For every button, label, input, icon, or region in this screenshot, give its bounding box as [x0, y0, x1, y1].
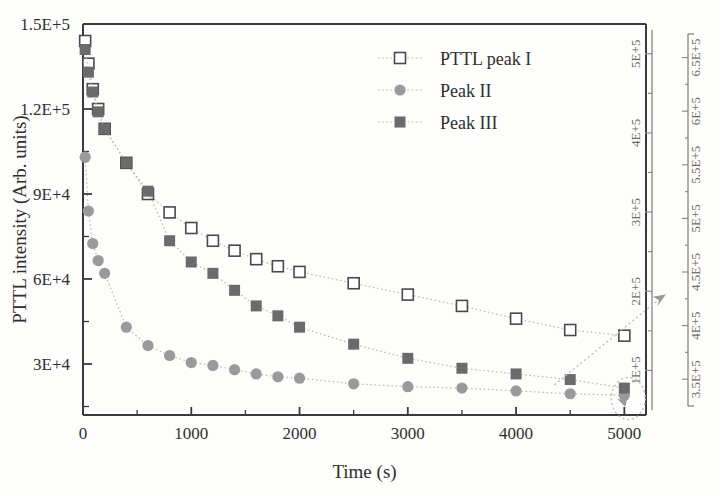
right-inner-tick-label: 4E+5 [628, 119, 643, 147]
legend-item-2[interactable]: Peak II [378, 81, 491, 101]
legend-label: PTTL peak I [440, 49, 531, 69]
right-outer-tick-label: 5E+5 [688, 204, 703, 232]
data-point [272, 261, 283, 272]
data-point [83, 67, 94, 78]
right-outer-tick-label: 6.5E+5 [688, 39, 703, 77]
data-point [121, 157, 132, 168]
data-point [93, 255, 104, 266]
data-point [121, 322, 132, 333]
series-2 [80, 152, 630, 401]
data-point [272, 371, 283, 382]
data-point [251, 254, 262, 265]
data-point [99, 123, 110, 134]
y-tick-label: 6E+4 [33, 270, 70, 289]
data-point [565, 325, 576, 336]
data-point [456, 300, 467, 311]
data-point [207, 360, 218, 371]
figure-container: 0100020003000400050003E+46E+49E+41.2E+51… [0, 0, 716, 494]
data-point [348, 378, 359, 389]
y-axis-title: PTTL intensity (Arb. units) [9, 115, 31, 323]
data-point [93, 106, 104, 117]
annotation-arrow-line [554, 295, 664, 385]
annotation-arrow-head [653, 294, 666, 306]
legend-label: Peak II [440, 81, 491, 101]
x-tick-label: 2000 [283, 424, 317, 443]
data-point [229, 245, 240, 256]
x-tick-label: 1000 [174, 424, 208, 443]
data-point [402, 353, 413, 364]
y-tick-label: 9E+4 [33, 185, 70, 204]
data-point [87, 238, 98, 249]
data-point [87, 87, 98, 98]
data-point [80, 44, 91, 55]
data-point [619, 330, 630, 341]
right-inner-tick-label: 2E+5 [628, 277, 643, 305]
legend-item-3[interactable]: Peak III [378, 113, 497, 133]
x-axis-title: Time (s) [332, 461, 396, 483]
legend-label: Peak III [440, 113, 497, 133]
data-point [294, 322, 305, 333]
data-point [229, 364, 240, 375]
data-point [164, 235, 175, 246]
data-point [186, 357, 197, 368]
data-point [294, 373, 305, 384]
data-point [251, 368, 262, 379]
right-outer-tick-label: 4.5E+5 [688, 253, 703, 291]
legend-item-1[interactable]: PTTL peak I [378, 49, 531, 69]
series-connector [85, 50, 624, 389]
data-point [402, 289, 413, 300]
data-point [207, 268, 218, 279]
x-tick-label: 3000 [391, 424, 425, 443]
ptl-decay-chart: 0100020003000400050003E+46E+49E+41.2E+51… [0, 0, 716, 494]
data-point [511, 368, 522, 379]
series-1 [80, 36, 630, 342]
data-point [83, 205, 94, 216]
data-point [395, 53, 406, 64]
right-outer-tick-label: 3.5E+5 [688, 360, 703, 398]
right-outer-tick-label: 6E+5 [688, 97, 703, 125]
right-inner-tick-label: 1E+5 [628, 356, 643, 384]
right-inner-tick-label: 3E+5 [628, 198, 643, 226]
data-point [394, 84, 405, 95]
data-point [99, 268, 110, 279]
data-point [294, 266, 305, 277]
x-tick-label: 0 [79, 424, 88, 443]
data-point [80, 152, 91, 163]
right-inner-tick-label: 5E+5 [628, 40, 643, 68]
data-point [186, 257, 197, 268]
data-point [164, 350, 175, 361]
data-point [402, 381, 413, 392]
x-tick-label: 5000 [607, 424, 641, 443]
data-point [348, 339, 359, 350]
y-tick-label: 1.5E+5 [20, 15, 70, 34]
data-point [348, 278, 359, 289]
right-outer-tick-label: 4E+5 [688, 311, 703, 339]
x-tick-label: 4000 [499, 424, 533, 443]
data-point [565, 388, 576, 399]
data-point [142, 186, 153, 197]
data-point [395, 117, 406, 128]
data-point [142, 340, 153, 351]
data-point [207, 235, 218, 246]
data-point [186, 223, 197, 234]
data-point [229, 285, 240, 296]
data-point [164, 207, 175, 218]
data-point [272, 310, 283, 321]
data-point [511, 313, 522, 324]
right-outer-tick-label: 5.5E+5 [688, 146, 703, 184]
data-point [456, 382, 467, 393]
data-point [456, 363, 467, 374]
data-point [619, 383, 630, 394]
data-point [251, 300, 262, 311]
series-connector [85, 41, 624, 336]
data-point [510, 385, 521, 396]
series-3 [80, 44, 630, 394]
y-tick-label: 3E+4 [33, 355, 70, 374]
